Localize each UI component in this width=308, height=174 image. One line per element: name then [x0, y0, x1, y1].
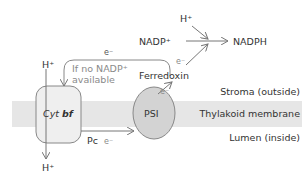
electron-cyclic-top: e⁻: [104, 48, 113, 57]
cyclic-annotation-line1: If no NADP⁺: [72, 63, 128, 74]
plastocyanin-label: Pc: [87, 135, 98, 146]
nadph-label: NADPH: [233, 36, 267, 47]
lumen-label: Lumen (inside): [229, 132, 300, 143]
ferredoxin-to-nadp-arrow: [186, 44, 208, 65]
nadp-plus-label: NADP⁺: [139, 36, 171, 47]
ferredoxin-label: Ferredoxin: [139, 70, 189, 81]
psi-label: PSI: [144, 108, 159, 119]
stroma-label: Stroma (outside): [220, 86, 300, 97]
electron-psi-to-fd: e⁻: [160, 87, 169, 96]
cyt-bf-label: Cyt bf: [43, 108, 75, 119]
h-plus-bottom-left: H⁺: [42, 162, 54, 173]
h-plus-top-left: H⁺: [42, 59, 54, 70]
electron-fd-to-nadp: e⁻: [176, 57, 185, 66]
cyclic-electron-flow-diagram: H⁺ H⁺ H⁺ NADP⁺ NADPH e⁻ If no NADP⁺ avai…: [0, 0, 308, 174]
cyclic-annotation-line2: available: [72, 74, 115, 85]
membrane-label: Thylakoid membrane: [198, 108, 300, 119]
h-plus-top-right: H⁺: [180, 13, 192, 24]
proton-to-nadph-arrow: [192, 26, 208, 39]
electron-pc-to-psi: e⁻: [104, 137, 113, 146]
